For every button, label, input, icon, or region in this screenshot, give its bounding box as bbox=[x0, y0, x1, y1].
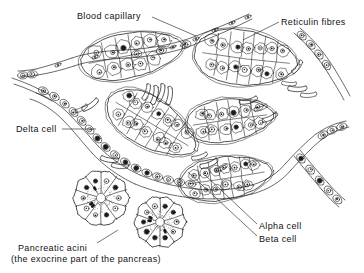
cluster-lower-right bbox=[178, 155, 274, 204]
cluster-upper-right bbox=[192, 27, 300, 87]
capillary-lower-left-branch bbox=[12, 78, 52, 101]
label-pancreatic-acini: Pancreatic acini bbox=[18, 243, 87, 254]
capillary-lining-cells bbox=[322, 184, 343, 205]
label-pancreatic-acini-sub: (the exocrine part of the pancreas) bbox=[11, 254, 161, 265]
histology-illustration bbox=[0, 0, 364, 273]
label-blood-capillary: Blood capillary bbox=[77, 11, 141, 23]
figure-canvas: Blood capillary Reticulin fibres Delta c… bbox=[0, 0, 364, 273]
cluster-center-left bbox=[105, 87, 199, 157]
capillary-lining-cells bbox=[141, 168, 197, 188]
label-alpha-cell: Alpha cell bbox=[259, 221, 302, 233]
capillary-lining-cells bbox=[296, 30, 333, 72]
acinus-right bbox=[134, 197, 186, 247]
label-beta-cell: Beta cell bbox=[259, 234, 297, 246]
acinus-left bbox=[73, 171, 130, 225]
capillary-lining-cells bbox=[17, 70, 37, 79]
leader-pancreatic-acini bbox=[97, 230, 118, 243]
capillary-upper-right-branch bbox=[294, 28, 350, 100]
capillary-lining-cells bbox=[295, 152, 326, 187]
label-reticulin-fibres: Reticulin fibres bbox=[281, 17, 346, 29]
capillary-right bbox=[286, 121, 349, 207]
capillary-lining-cells bbox=[317, 122, 348, 141]
label-delta-cell: Delta cell bbox=[16, 124, 57, 136]
